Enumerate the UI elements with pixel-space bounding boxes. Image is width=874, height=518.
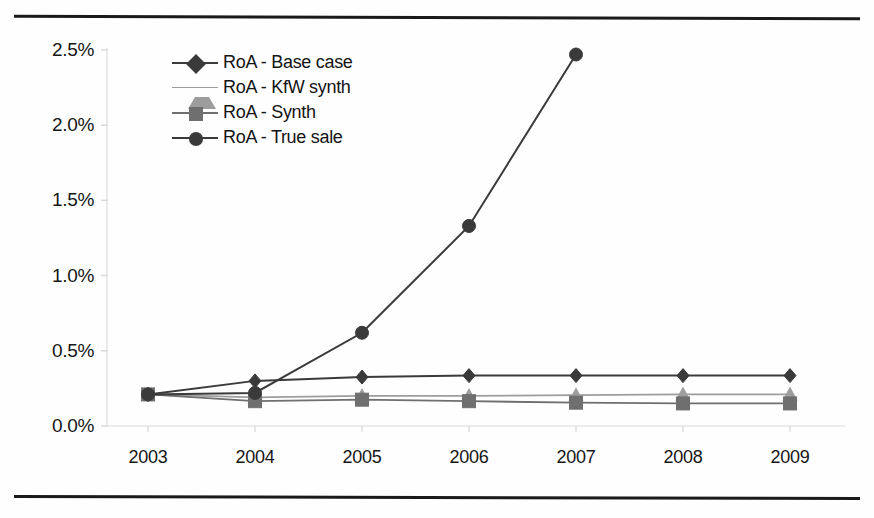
data-point [463, 219, 476, 232]
legend-label: RoA - True sale [218, 127, 343, 148]
legend-item: RoA - KfW synth [172, 75, 353, 100]
data-point [784, 397, 797, 410]
data-point [570, 48, 583, 61]
data-point [356, 370, 368, 384]
data-point [570, 369, 582, 383]
x-axis-tick-label: 2008 [648, 448, 718, 466]
data-point [677, 397, 690, 410]
legend-item: RoA - Synth [172, 100, 353, 125]
legend-marker-circle-icon [172, 128, 218, 148]
bottom-horizontal-rule [14, 495, 860, 500]
data-point [463, 369, 475, 383]
legend-marker-triangle-icon [172, 78, 218, 98]
data-point [356, 393, 369, 406]
data-point [463, 395, 476, 408]
legend-marker-diamond-icon [172, 53, 218, 73]
data-point [249, 386, 262, 399]
data-point [249, 374, 261, 388]
y-axis-tick-label: 1.0% [32, 266, 94, 285]
chart-plot-area [0, 24, 874, 484]
y-axis-tick-labels: 0.0%0.5%1.0%1.5%2.0%2.5% [28, 24, 94, 484]
y-axis-tick-label: 2.5% [32, 40, 94, 59]
legend-label: RoA - Synth [218, 102, 316, 123]
figure-page: 0.0%0.5%1.0%1.5%2.0%2.5% 200320042005200… [0, 0, 874, 518]
x-axis-tick-label: 2005 [327, 448, 397, 466]
legend-marker-square-icon [172, 103, 218, 123]
data-point [142, 388, 155, 401]
chart-legend: RoA - Base caseRoA - KfW synthRoA - Synt… [172, 50, 353, 150]
x-axis-tick-label: 2004 [220, 448, 290, 466]
y-axis-tick-label: 0.5% [32, 341, 94, 360]
line-chart: 0.0%0.5%1.0%1.5%2.0%2.5% 200320042005200… [0, 24, 874, 484]
y-axis-tick-label: 1.5% [32, 190, 94, 209]
x-axis-tick-label: 2007 [541, 448, 611, 466]
legend-label: RoA - Base case [218, 52, 353, 73]
x-axis-tick-label: 2009 [755, 448, 825, 466]
data-point [677, 369, 689, 383]
data-point [570, 396, 583, 409]
x-axis-tick-label: 2006 [434, 448, 504, 466]
y-axis-tick-label: 0.0% [32, 416, 94, 435]
data-point [784, 369, 796, 383]
legend-label: RoA - KfW synth [218, 77, 351, 98]
top-horizontal-rule [14, 15, 860, 21]
legend-item: RoA - Base case [172, 50, 353, 75]
y-axis-tick-label: 2.0% [32, 115, 94, 134]
legend-item: RoA - True sale [172, 125, 353, 150]
data-point [356, 326, 369, 339]
x-axis-tick-label: 2003 [113, 448, 183, 466]
